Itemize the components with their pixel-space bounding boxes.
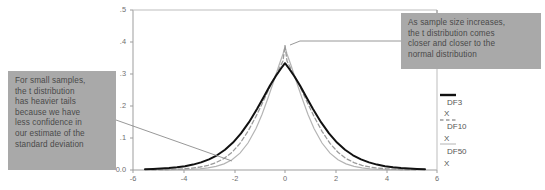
legend-sublabel-df10: X (444, 134, 449, 143)
leader-line-right (290, 41, 401, 45)
y-tick-label-5: .5 (104, 6, 126, 14)
legend-sublabel-df3: X (444, 109, 449, 118)
axis-spines (133, 10, 437, 170)
legend-label-df3: DF3 (447, 98, 462, 107)
x-tick-label-0: -6 (123, 175, 143, 183)
series-line-df50 (160, 47, 410, 170)
x-tick-label-4: 2 (326, 175, 346, 183)
annotation-callout-right: As sample size increases, the t distribu… (401, 13, 541, 69)
legend-label-df10: DF10 (447, 122, 467, 131)
legend-label-df50: DF50 (447, 147, 467, 156)
legend-sublabel-df50: X (444, 159, 449, 168)
x-tick-label-3: 0 (275, 175, 295, 183)
x-tick-label-1: -4 (174, 175, 194, 183)
x-tick-label-2: -2 (225, 175, 245, 183)
chart-figure: .5 .4 .3 .2 .1 0.0 -6 -4 -2 0 2 4 6 For … (0, 0, 545, 190)
annotation-callout-left: For small samples, the t distribution ha… (8, 71, 116, 170)
series-line-df3 (145, 63, 425, 169)
x-tick-label-6: 6 (427, 175, 447, 183)
y-tick-label-4: .4 (104, 38, 126, 46)
x-tick-label-5: 4 (377, 175, 397, 183)
